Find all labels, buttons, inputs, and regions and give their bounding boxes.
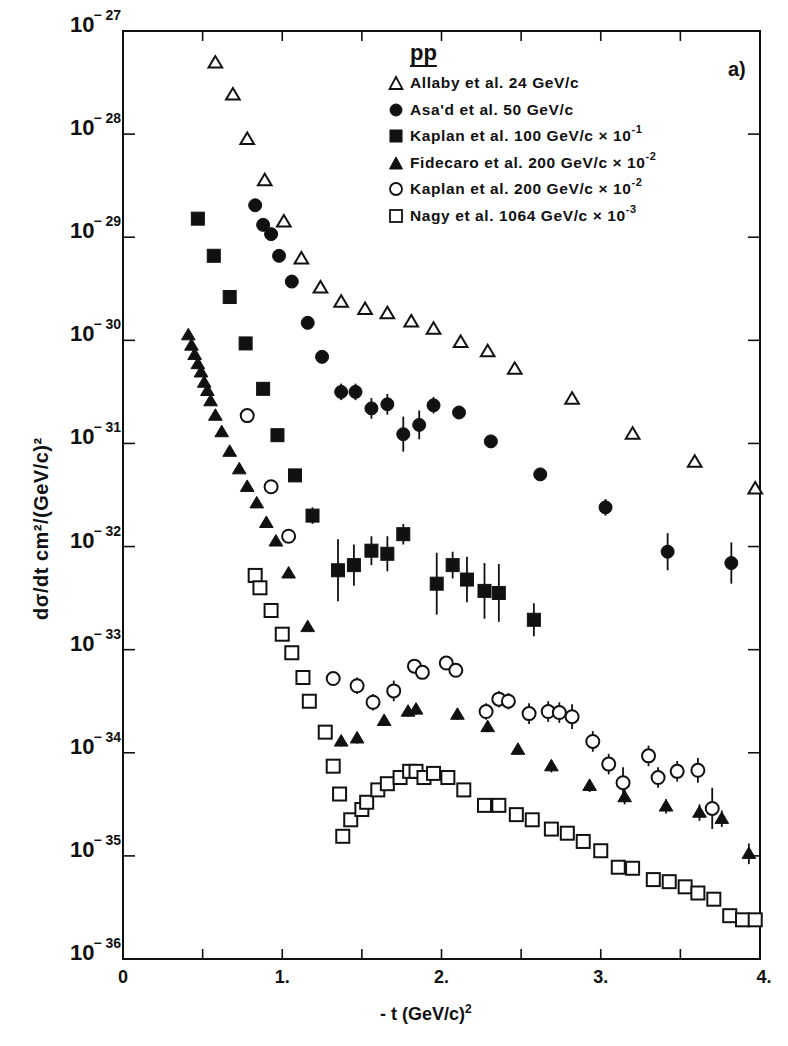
data-point-square-open	[427, 767, 440, 780]
data-point-square-open	[723, 909, 736, 922]
data-point-circle-open	[265, 480, 278, 493]
data-point-triangle-open	[381, 307, 395, 318]
data-point-circle-open	[502, 695, 515, 708]
data-point-circle-filled	[381, 398, 394, 411]
data-point-square-open	[296, 671, 309, 684]
data-point-square-filled	[306, 509, 319, 522]
data-point-triangle-filled	[350, 731, 364, 742]
data-point-triangle-filled	[693, 806, 707, 817]
data-point-triangle-filled	[181, 328, 195, 339]
data-point-square-filled	[331, 564, 344, 577]
data-point-circle-filled	[599, 501, 612, 514]
data-point-square-open	[319, 726, 332, 739]
data-point-circle-filled	[484, 435, 497, 448]
data-point-triangle-filled	[260, 516, 274, 527]
y-axis-label-text: dσ/dt cm²/(GeV/c)²	[30, 437, 52, 620]
data-point-circle-filled	[397, 428, 410, 441]
y-tick-label: 10− 27	[70, 11, 121, 38]
data-point-square-open	[749, 913, 762, 926]
data-point-triangle-open	[358, 303, 372, 314]
data-point-triangle-open	[404, 315, 418, 326]
data-point-triangle-filled	[240, 480, 254, 491]
data-point-square-filled	[271, 429, 284, 442]
data-point-triangle-filled	[282, 567, 296, 578]
data-point-triangle-filled	[583, 779, 597, 790]
data-point-circle-open	[706, 802, 719, 815]
data-point-circle-open	[523, 707, 536, 720]
data-point-circle-filled	[427, 399, 440, 412]
data-point-circle-open	[387, 684, 400, 697]
data-point-square-filled	[191, 212, 204, 225]
data-point-square-filled	[223, 291, 236, 304]
data-point-square-open	[381, 777, 394, 790]
x-tick-label: 2.	[434, 967, 449, 988]
data-point-square-open	[265, 604, 278, 617]
data-point-circle-filled	[273, 249, 286, 262]
data-point-square-filled	[478, 584, 491, 597]
data-point-square-filled	[257, 382, 270, 395]
data-point-square-open	[336, 830, 349, 843]
triangle-filled-marker-icon	[388, 155, 404, 171]
legend-item: Kaplan et al. 200 GeV/c × 10-2	[388, 176, 657, 203]
data-point-circle-filled	[335, 385, 348, 398]
data-point-circle-open	[553, 706, 566, 719]
data-point-triangle-filled	[269, 535, 283, 546]
data-point-square-filled	[430, 577, 443, 590]
data-point-square-filled	[347, 559, 360, 572]
data-point-circle-filled	[349, 385, 362, 398]
data-point-square-filled	[527, 613, 540, 626]
data-point-triangle-open	[454, 336, 468, 347]
data-point-square-open	[510, 808, 523, 821]
data-point-triangle-open	[314, 281, 328, 292]
data-point-circle-filled	[316, 350, 329, 363]
y-tick-label: 10− 32	[70, 527, 121, 554]
data-point-square-open	[303, 695, 316, 708]
circle-filled-marker-icon	[388, 102, 404, 118]
y-tick-label: 10− 31	[70, 423, 121, 450]
data-point-triangle-filled	[511, 743, 525, 754]
square-open-marker-icon	[388, 208, 404, 224]
data-point-circle-filled	[661, 545, 674, 558]
data-point-circle-open	[691, 764, 704, 777]
circle-open-marker-icon	[388, 181, 404, 197]
data-point-circle-open	[282, 530, 295, 543]
data-point-square-open	[253, 581, 266, 594]
legend-item: Allaby et al. 24 GeV/c	[388, 70, 657, 97]
data-point-square-filled	[381, 547, 394, 560]
x-axis-label-text: - t (GeV/c)	[380, 1004, 465, 1024]
data-point-square-filled	[239, 337, 252, 350]
data-point-triangle-filled	[209, 409, 223, 420]
data-point-square-open	[276, 628, 289, 641]
data-point-triangle-filled	[451, 708, 465, 719]
legend-label: Nagy et al. 1064 GeV/c × 10	[410, 207, 626, 225]
data-point-circle-filled	[301, 316, 314, 329]
x-tick-label: 4.	[756, 967, 771, 988]
legend-label: Kaplan et al. 200 GeV/c × 10	[410, 180, 631, 198]
data-point-square-filled	[446, 559, 459, 572]
data-point-circle-open	[327, 672, 340, 685]
data-point-circle-open	[642, 749, 655, 762]
data-point-triangle-filled	[481, 720, 495, 731]
data-point-circle-filled	[265, 228, 278, 241]
legend-scale-exponent: -1	[631, 123, 642, 135]
y-tick-label: 10− 33	[70, 630, 121, 657]
data-point-triangle-filled	[223, 445, 237, 456]
chart-figure: 10− 2710− 2810− 2910− 3010− 3110− 3210− …	[0, 0, 788, 1046]
data-point-triangle-filled	[409, 703, 423, 714]
square-filled-marker-icon	[388, 128, 404, 144]
legend-items: Allaby et al. 24 GeV/cAsa'd et al. 50 Ge…	[388, 70, 657, 229]
data-point-square-open	[327, 760, 340, 773]
data-point-square-open	[647, 873, 660, 886]
legend-item: Kaplan et al. 100 GeV/c × 10-1	[388, 123, 657, 150]
data-point-circle-open	[617, 776, 630, 789]
data-point-circle-filled	[285, 275, 298, 288]
data-point-square-open	[360, 796, 373, 809]
data-point-square-open	[691, 887, 704, 900]
data-point-square-open	[285, 646, 298, 659]
data-point-circle-open	[652, 771, 665, 784]
data-point-triangle-filled	[250, 496, 264, 507]
data-point-triangle-open	[240, 132, 254, 143]
y-tick-label: 10− 36	[70, 939, 121, 966]
data-point-triangle-open	[626, 427, 640, 438]
y-tick-label: 10− 35	[70, 836, 121, 863]
